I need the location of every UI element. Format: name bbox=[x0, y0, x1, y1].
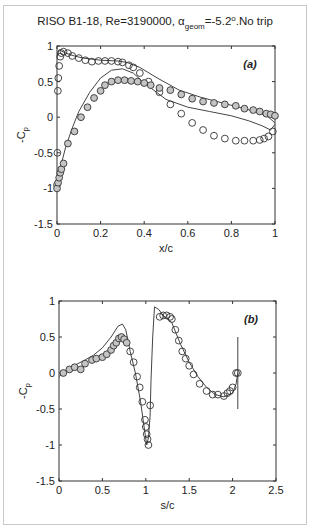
data-point bbox=[178, 91, 185, 98]
plot-a: 00.20.40.60.8110.50-0.5-1-1.5x/c-Cp(a) bbox=[15, 40, 278, 254]
x-tick-label: 1.5 bbox=[182, 484, 197, 496]
data-point bbox=[147, 82, 154, 89]
data-point bbox=[256, 108, 263, 115]
y-tick-label: -1.5 bbox=[34, 218, 53, 230]
data-point bbox=[221, 101, 228, 108]
data-point bbox=[71, 128, 78, 135]
y-tick-label: 0 bbox=[47, 111, 53, 123]
panel-label: (b) bbox=[244, 313, 258, 325]
x-tick-label: 0.4 bbox=[137, 227, 152, 239]
data-point bbox=[211, 100, 218, 107]
y-axis-label: -Cp bbox=[15, 126, 30, 143]
axes-box bbox=[57, 46, 275, 224]
y-tick-label: 0 bbox=[49, 367, 55, 379]
data-point bbox=[200, 98, 207, 105]
x-axis-label: x/c bbox=[159, 242, 174, 254]
data-point bbox=[167, 87, 174, 94]
y-tick-label: 1 bbox=[49, 295, 55, 307]
data-point bbox=[128, 77, 135, 84]
data-point bbox=[189, 95, 196, 102]
plot-b: 00.511.522.510.50-0.5-1-1.5s/c-Cp(b) bbox=[17, 295, 284, 511]
x-tick-label: 0 bbox=[54, 227, 60, 239]
x-tick-label: 0.2 bbox=[93, 227, 108, 239]
x-tick-label: 2.5 bbox=[268, 484, 283, 496]
data-point bbox=[141, 80, 148, 87]
data-point bbox=[97, 87, 104, 94]
y-tick-label: 0.5 bbox=[40, 331, 55, 343]
figure: RISO B1-18, Re=3190000, αgeom=-5.2o.No t… bbox=[0, 0, 311, 531]
data-point bbox=[78, 114, 85, 121]
data-point bbox=[77, 366, 84, 373]
x-tick-label: 2 bbox=[230, 484, 236, 496]
data-point bbox=[108, 78, 115, 85]
axes-box bbox=[59, 301, 276, 481]
data-point bbox=[84, 104, 91, 111]
data-point bbox=[91, 95, 98, 102]
y-tick-label: 1 bbox=[47, 40, 53, 52]
data-point bbox=[82, 360, 89, 367]
y-axis-label: -Cp bbox=[17, 382, 32, 399]
data-point bbox=[121, 77, 128, 84]
x-tick-label: 0 bbox=[56, 484, 62, 496]
data-point bbox=[232, 102, 239, 109]
y-tick-label: -1 bbox=[43, 182, 53, 194]
y-tick-label: -0.5 bbox=[34, 147, 53, 159]
x-tick-label: 1 bbox=[143, 484, 149, 496]
y-tick-label: -1 bbox=[45, 439, 55, 451]
data-point bbox=[250, 107, 257, 114]
chart-title: RISO B1-18, Re=3190000, αgeom=-5.2o.No t… bbox=[37, 14, 273, 31]
data-point bbox=[123, 339, 130, 346]
x-axis-label: s/c bbox=[160, 499, 175, 511]
data-point bbox=[60, 160, 67, 167]
y-tick-label: -0.5 bbox=[36, 403, 55, 415]
x-tick-label: 0.6 bbox=[180, 227, 195, 239]
data-point bbox=[241, 105, 248, 112]
data-point bbox=[156, 85, 163, 92]
data-point bbox=[134, 78, 141, 85]
data-point bbox=[115, 77, 122, 84]
x-tick-label: 0.5 bbox=[95, 484, 110, 496]
x-tick-label: 0.8 bbox=[224, 227, 239, 239]
x-tick-label: 1 bbox=[272, 227, 278, 239]
panel-label: (a) bbox=[243, 58, 257, 70]
y-tick-label: 0.5 bbox=[38, 76, 53, 88]
data-point bbox=[60, 370, 67, 377]
data-point bbox=[272, 112, 279, 119]
data-point bbox=[102, 82, 109, 89]
data-point bbox=[65, 140, 72, 147]
y-tick-label: -1.5 bbox=[36, 475, 55, 487]
